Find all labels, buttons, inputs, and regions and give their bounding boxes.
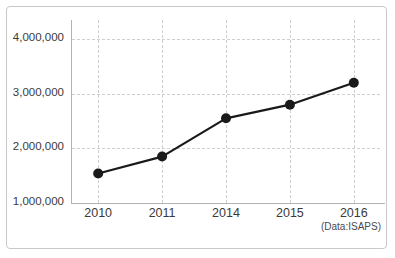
data-point-marker [349,78,359,88]
data-point-marker [285,100,295,110]
source-note: (Data:ISAPS) [321,221,381,232]
series-line [98,83,354,174]
data-series [0,0,395,258]
data-point-marker [157,152,167,162]
data-point-marker [93,169,103,179]
data-point-marker [221,113,231,123]
chart-figure: 4,000,0003,000,0002,000,0001,000,000 201… [0,0,395,258]
